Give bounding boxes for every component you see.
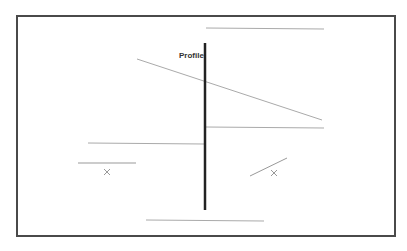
top-line [206, 28, 324, 29]
diagram-canvas [0, 0, 407, 251]
profile-label: Profile [179, 51, 204, 60]
left-horizontal-line [88, 143, 204, 144]
right-cross-icon [271, 170, 277, 176]
diagonal-line [137, 59, 322, 120]
short-diagonal-line [250, 158, 287, 176]
left-cross-icon [104, 169, 110, 175]
right-horizontal-line [206, 127, 324, 128]
bottom-line [146, 220, 264, 221]
